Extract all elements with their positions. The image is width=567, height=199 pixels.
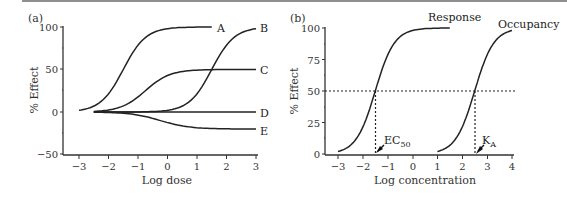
svg-text:25: 25 xyxy=(307,118,320,129)
svg-text:4: 4 xyxy=(509,161,515,172)
svg-text:−3: −3 xyxy=(72,161,87,172)
label-d: D xyxy=(260,107,269,120)
svg-text:50: 50 xyxy=(307,86,320,97)
svg-text:−2: −2 xyxy=(356,161,371,172)
panel-b-x-label: Log concentration xyxy=(374,174,476,187)
svg-text:2: 2 xyxy=(223,161,229,172)
response-curve xyxy=(338,28,450,151)
occupancy-curve xyxy=(437,31,512,152)
svg-text:KA: KA xyxy=(482,134,496,149)
svg-text:0: 0 xyxy=(410,161,416,172)
panel-a: (a) 100 50 0 −50 −3 −2 −1 0 1 2 xyxy=(28,12,269,187)
panel-a-x-label: Log dose xyxy=(142,174,192,187)
svg-text:1: 1 xyxy=(434,161,440,172)
svg-text:1: 1 xyxy=(194,161,200,172)
curve-a xyxy=(79,27,212,110)
label-b: B xyxy=(260,22,268,35)
svg-text:−2: −2 xyxy=(101,161,116,172)
panel-a-curves xyxy=(79,27,256,129)
svg-text:−3: −3 xyxy=(331,161,346,172)
panel-a-x-tick-labels: −3 −2 −1 0 1 2 3 xyxy=(72,161,260,172)
svg-text:EC50: EC50 xyxy=(384,134,411,149)
svg-text:−1: −1 xyxy=(381,161,396,172)
panel-b-y-tick-labels: 100 75 50 25 0 xyxy=(301,23,320,160)
panel-b-y-label: % Effect xyxy=(288,67,301,114)
panel-a-y-label: % Effect xyxy=(28,66,41,113)
label-e: E xyxy=(260,125,268,138)
svg-text:3: 3 xyxy=(253,161,259,172)
svg-text:0: 0 xyxy=(164,161,170,172)
svg-text:100: 100 xyxy=(301,23,320,34)
svg-text:0: 0 xyxy=(52,107,58,118)
svg-text:−1: −1 xyxy=(131,161,146,172)
svg-text:100: 100 xyxy=(39,22,58,33)
svg-text:2: 2 xyxy=(459,161,465,172)
curve-e xyxy=(94,112,256,129)
label-a: A xyxy=(216,22,226,35)
ec50-annotation: EC50 xyxy=(376,134,411,153)
panel-a-curve-labels: A B C D E xyxy=(216,22,269,138)
svg-text:−50: −50 xyxy=(37,149,58,160)
curve-c xyxy=(94,70,256,112)
response-label: Response xyxy=(428,11,481,24)
figure: (a) 100 50 0 −50 −3 −2 −1 0 1 2 xyxy=(0,0,567,199)
panel-b-curves xyxy=(338,28,512,151)
occupancy-label: Occupancy xyxy=(498,18,560,31)
ka-annotation: KA xyxy=(476,134,496,154)
svg-text:75: 75 xyxy=(307,55,320,66)
svg-text:3: 3 xyxy=(484,161,490,172)
curve-b xyxy=(94,29,256,112)
panel-b: (b) 100 75 50 25 0 −3 −2 −1 0 1 xyxy=(288,11,560,187)
label-c: C xyxy=(260,64,268,77)
svg-text:50: 50 xyxy=(45,64,58,75)
svg-text:0: 0 xyxy=(314,149,320,160)
panel-b-x-tick-labels: −3 −2 −1 0 1 2 3 4 xyxy=(331,161,516,172)
